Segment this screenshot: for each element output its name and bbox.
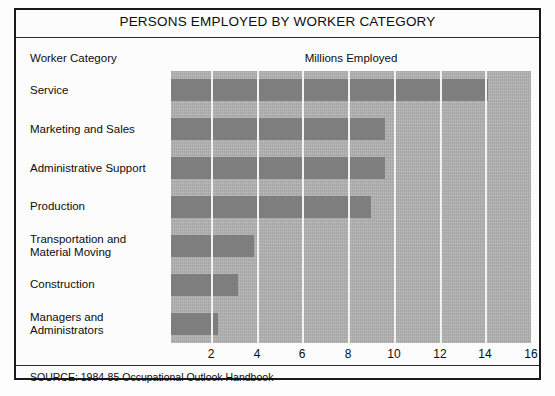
x-tick-label: 6	[290, 347, 314, 361]
x-tick-label: 2	[199, 347, 223, 361]
category-label-line: Transportation and	[30, 233, 170, 246]
bar	[171, 157, 385, 179]
category-label-line: Service	[30, 84, 170, 97]
category-label-line: Administrative Support	[30, 162, 170, 175]
x-tick-label: 12	[428, 347, 452, 361]
gridline	[485, 71, 487, 343]
gridline	[302, 71, 304, 343]
value-axis-header: Millions Employed	[171, 52, 531, 64]
x-tick-label: 10	[382, 347, 406, 361]
category-label-line: Construction	[30, 278, 170, 291]
category-label: Managers andAdministrators	[30, 311, 170, 337]
x-tick-label: 14	[473, 347, 497, 361]
category-label: Service	[30, 84, 170, 97]
category-label: Production	[30, 200, 170, 213]
category-label-line: Production	[30, 200, 170, 213]
bar	[171, 196, 371, 218]
category-label: Marketing and Sales	[30, 123, 170, 136]
gridline	[440, 71, 442, 343]
x-tick-label: 16	[519, 347, 543, 361]
gridline	[257, 71, 259, 343]
category-label-line: Marketing and Sales	[30, 123, 170, 136]
category-label-line: Material Moving	[30, 246, 170, 259]
category-axis-header: Worker Category	[30, 52, 117, 64]
chart-figure: PERSONS EMPLOYED BY WORKER CATEGORY Work…	[0, 0, 555, 396]
title-divider	[16, 37, 539, 38]
category-label-line: Administrators	[30, 324, 170, 337]
gridline	[211, 71, 213, 343]
category-label: Transportation andMaterial Moving	[30, 233, 170, 259]
gridline	[394, 71, 396, 343]
x-tick-label: 4	[245, 347, 269, 361]
category-label: Administrative Support	[30, 162, 170, 175]
bar	[171, 274, 238, 296]
category-label: Construction	[30, 278, 170, 291]
source-divider	[16, 365, 539, 366]
x-tick-label: 8	[336, 347, 360, 361]
bar	[171, 118, 385, 140]
gridline	[348, 71, 350, 343]
source-note: SOURCE: 1984-85 Occupational Outlook Han…	[30, 371, 273, 383]
category-label-line: Managers and	[30, 311, 170, 324]
plot-area	[171, 71, 531, 343]
chart-title: PERSONS EMPLOYED BY WORKER CATEGORY	[0, 14, 555, 29]
